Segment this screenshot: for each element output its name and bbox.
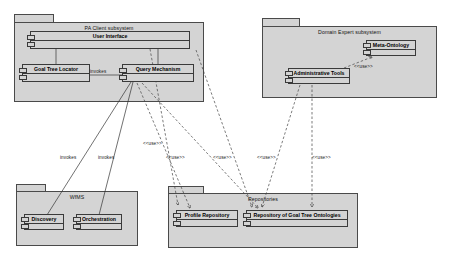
edge-label-invokes-orchestration: invokes — [98, 155, 114, 160]
edge-label-use-5: <<use>> — [312, 155, 331, 160]
component-label: Meta-Ontology — [367, 41, 415, 50]
edge-label-use-6: <<use>> — [354, 64, 373, 69]
conn-qm-orch — [99, 82, 133, 215]
component-meta-ontology[interactable]: Meta-Ontology — [366, 40, 416, 56]
conn-gtl-gto — [196, 50, 252, 207]
component-query-mechanism[interactable]: Query Mechanism — [122, 64, 194, 82]
uml-diagram-canvas: PA Client subsystem Domain Expert subsys… — [0, 0, 450, 261]
component-profile-repository[interactable]: Profile Repository — [176, 210, 238, 227]
component-plug-icon — [119, 68, 127, 73]
component-plug-icon — [173, 213, 181, 218]
edge-label-use-4: <<use>> — [257, 155, 276, 160]
component-plug-icon — [285, 71, 293, 76]
component-plug-icon — [21, 217, 29, 222]
edge-label-use-3: <<use>> — [213, 155, 232, 160]
component-plug-icon — [19, 75, 27, 80]
component-administrative-tools[interactable]: Administrative Tools — [288, 68, 350, 84]
component-plug-icon — [363, 50, 371, 55]
component-label: Query Mechanism — [123, 65, 193, 74]
component-plug-icon — [285, 78, 293, 83]
component-plug-icon — [73, 217, 81, 222]
component-plug-icon — [27, 42, 35, 47]
edge-label-invokes-query-mechanism: invokes — [90, 69, 106, 74]
component-label: Repository of Goal Tree Ontologies — [247, 211, 347, 220]
component-plug-icon — [173, 221, 181, 226]
component-plug-icon — [363, 43, 371, 48]
component-label: Profile Repository — [177, 211, 237, 220]
component-plug-icon — [243, 213, 251, 218]
edge-label-use-1: <<use>> — [143, 141, 162, 146]
conn-admin-gto — [262, 85, 300, 207]
component-plug-icon — [119, 75, 127, 80]
conn-qm-discovery — [47, 82, 131, 215]
component-user-interface[interactable]: User Interface — [30, 31, 190, 49]
component-plug-icon — [21, 224, 29, 229]
component-label: Goal Tree Locator — [23, 65, 89, 74]
edge-label-invokes-discovery: invokes — [60, 155, 76, 160]
component-label: User Interface — [31, 32, 189, 41]
edge-label-use-2: <<use>> — [166, 155, 185, 160]
component-goal-tree-ontologies[interactable]: Repository of Goal Tree Ontologies — [246, 210, 348, 227]
component-goal-tree-locator[interactable]: Goal Tree Locator — [22, 64, 90, 82]
component-label: Orchestration — [77, 215, 121, 224]
component-orchestration[interactable]: Orchestration — [76, 214, 122, 230]
component-label: Discovery — [25, 215, 63, 224]
component-plug-icon — [19, 68, 27, 73]
component-discovery[interactable]: Discovery — [24, 214, 64, 230]
component-plug-icon — [243, 221, 251, 226]
component-plug-icon — [27, 35, 35, 40]
component-label: Administrative Tools — [289, 69, 349, 78]
component-plug-icon — [73, 224, 81, 229]
